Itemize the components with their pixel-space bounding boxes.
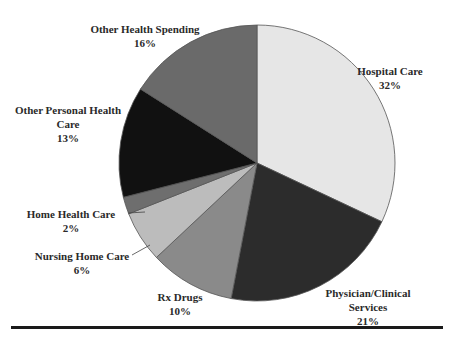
label-pct: 6%: [22, 263, 142, 277]
label-name: Hospital Care: [340, 64, 440, 78]
label-rx-drugs: Rx Drugs 10%: [140, 290, 220, 318]
bottom-rule: [11, 326, 443, 329]
label-physician: Physician/Clinical Services 21%: [318, 286, 418, 328]
label-name-line2: Care: [8, 117, 128, 131]
label-hospital-care: Hospital Care 32%: [340, 64, 440, 92]
label-name: Nursing Home Care: [22, 249, 142, 263]
label-pct: 13%: [8, 131, 128, 145]
label-name-line2: Services: [318, 300, 418, 314]
label-name: Home Health Care: [16, 207, 126, 221]
label-name: Physician/Clinical: [318, 286, 418, 300]
label-other-personal: Other Personal Health Care 13%: [8, 103, 128, 145]
label-pct: 32%: [340, 78, 440, 92]
label-name: Other Health Spending: [80, 22, 210, 36]
label-name: Other Personal Health: [8, 103, 128, 117]
label-nursing-home: Nursing Home Care 6%: [22, 249, 142, 277]
label-pct: 2%: [16, 221, 126, 235]
label-other-spending: Other Health Spending 16%: [80, 22, 210, 50]
label-pct: 10%: [140, 304, 220, 318]
label-name: Rx Drugs: [140, 290, 220, 304]
label-pct: 16%: [80, 36, 210, 50]
label-home-health: Home Health Care 2%: [16, 207, 126, 235]
